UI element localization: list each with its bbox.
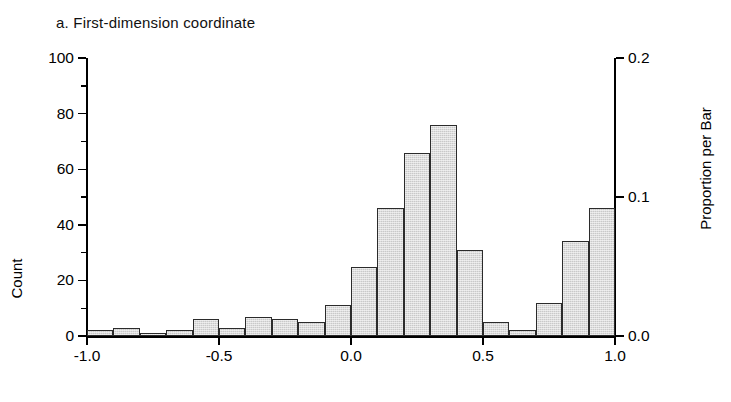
histogram-bar <box>509 330 535 336</box>
histogram-bar <box>430 125 456 336</box>
histogram-bar <box>193 319 219 336</box>
x-axis-tick-label: 1.0 <box>585 347 645 365</box>
y-axis-right-tick-label: 0.0 <box>628 328 650 343</box>
x-axis-tick <box>86 337 88 345</box>
y-axis-left-minor-tick <box>81 308 86 310</box>
y-axis-left-tick-label: 40 <box>0 217 74 232</box>
y-axis-right-tick <box>616 196 624 198</box>
histogram-figure: a. First-dimension coordinate 0204060801… <box>0 0 731 402</box>
y-axis-right-tick-label: 0.1 <box>628 189 650 204</box>
y-axis-left-tick <box>78 224 86 226</box>
histogram-bar <box>166 330 192 336</box>
histogram-bar <box>562 241 588 336</box>
histogram-bar <box>483 322 509 336</box>
histogram-bar <box>404 153 430 336</box>
x-axis-tick <box>350 337 352 345</box>
y-axis-left-minor-tick <box>81 141 86 143</box>
histogram-bar <box>325 305 351 336</box>
y-axis-left-tick <box>78 335 86 337</box>
x-axis-tick <box>614 337 616 345</box>
histogram-bar <box>377 208 403 336</box>
y-axis-left-tick <box>78 113 86 115</box>
histogram-bar <box>536 303 562 336</box>
y-axis-left-title: Count <box>8 239 25 319</box>
y-axis-right-tick-label: 0.2 <box>628 50 650 65</box>
y-axis-left-tick <box>78 57 86 59</box>
histogram-bar <box>113 328 139 336</box>
page-title: a. First-dimension coordinate <box>56 14 255 31</box>
y-axis-left-tick <box>78 169 86 171</box>
y-axis-left-minor-tick <box>81 196 86 198</box>
histogram-bar <box>351 267 377 337</box>
x-axis-tick-label: -1.0 <box>57 347 117 365</box>
histogram-bar <box>457 250 483 336</box>
histogram-bar <box>219 328 245 336</box>
y-axis-left-tick-label: 80 <box>0 106 74 121</box>
histogram-bar <box>272 319 298 336</box>
y-axis-left-tick-label: 60 <box>0 161 74 176</box>
histogram-bar <box>245 317 271 336</box>
x-axis-tick <box>482 337 484 345</box>
x-axis-tick-label: 0.0 <box>321 347 381 365</box>
y-axis-right-tick <box>616 57 624 59</box>
y-axis-left-tick-label: 0 <box>0 328 74 343</box>
histogram-bars <box>87 58 615 336</box>
y-axis-left-tick <box>78 280 86 282</box>
histogram-bar <box>140 333 166 336</box>
x-axis-tick-label: -0.5 <box>189 347 249 365</box>
histogram-bar <box>298 322 324 336</box>
y-axis-left-minor-tick <box>81 85 86 87</box>
y-axis-right-title: Proportion per Bar <box>697 89 714 249</box>
x-axis-tick-label: 0.5 <box>453 347 513 365</box>
histogram-bar <box>589 208 615 336</box>
y-axis-left-minor-tick <box>81 252 86 254</box>
histogram-bar <box>87 330 113 336</box>
x-axis-tick <box>218 337 220 345</box>
y-axis-left-tick-label: 100 <box>0 50 74 65</box>
y-axis-right-tick <box>616 335 624 337</box>
